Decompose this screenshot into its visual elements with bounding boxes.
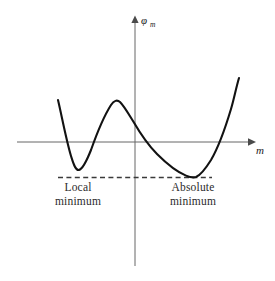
y-axis-label-subscript: m: [150, 20, 156, 29]
absolute-minimum-label-line1: Absolute: [150, 181, 236, 195]
local-minimum-label-line1: Local: [43, 181, 113, 195]
x-axis-label: m: [256, 144, 264, 156]
free-energy-curve: [58, 78, 239, 177]
free-energy-plot: φ m m: [0, 0, 275, 281]
local-minimum-label-line2: minimum: [43, 195, 113, 209]
local-minimum-label: Local minimum: [43, 181, 113, 208]
y-axis-label: φ: [141, 14, 147, 26]
x-axis-arrow-icon: [248, 138, 256, 146]
figure-container: φ m m Local minimum Absolute minimum: [0, 0, 275, 281]
absolute-minimum-label: Absolute minimum: [150, 181, 236, 208]
absolute-minimum-label-line2: minimum: [150, 195, 236, 209]
y-axis-arrow-icon: [131, 16, 138, 24]
